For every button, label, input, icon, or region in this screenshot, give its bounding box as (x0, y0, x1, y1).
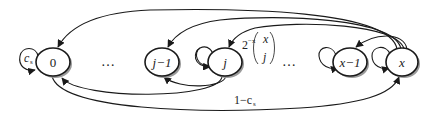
edge-j-to-j-minus-1 (164, 76, 226, 86)
markov-chain-diagram: 0 j−1 j x−1 x … … c s 2 −x x j 1−c s (0, 0, 439, 120)
edge-j-to-0 (62, 76, 222, 94)
edge-x-to-0 (58, 9, 397, 49)
node-0: 0 (36, 48, 72, 78)
node-x-minus-1-label: x−1 (338, 55, 360, 70)
ellipsis-left: … (101, 54, 115, 69)
node-x: x (386, 48, 420, 78)
svg-text:x: x (262, 32, 269, 46)
label-0-to-x: 1−c s (234, 93, 256, 108)
svg-text:1−c: 1−c (234, 93, 252, 107)
node-x-label: x (398, 55, 405, 70)
node-x-minus-1: x−1 (333, 48, 369, 78)
edge-0-to-x (52, 76, 399, 110)
svg-text:j: j (261, 50, 267, 64)
svg-text:s: s (30, 58, 33, 66)
ellipsis-right: … (282, 54, 296, 69)
node-j-minus-1: j−1 (145, 48, 181, 78)
edge-x-to-j-minus-1 (168, 18, 401, 49)
label-x-to-j: 2 −x x j (242, 32, 275, 64)
node-0-label: 0 (50, 55, 57, 70)
svg-text:s: s (253, 100, 256, 108)
label-self-loop-0: c s (24, 51, 33, 66)
node-j: j (208, 48, 244, 78)
node-j-minus-1-label: j−1 (151, 55, 172, 70)
